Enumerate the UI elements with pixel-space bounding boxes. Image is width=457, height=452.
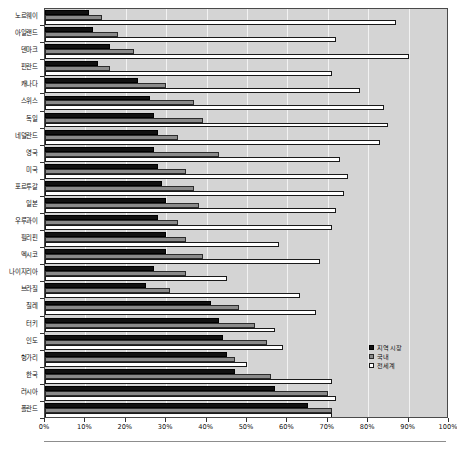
bar — [45, 310, 316, 315]
y-axis-tick-label: 칠레 — [26, 303, 38, 310]
y-axis-tick-label: 스위스 — [21, 98, 38, 105]
y-axis-labels: 노르웨이아일랜드덴마크핀란드캐나다스위스독일네덜란드영국미국포르투갈일본우루과이… — [0, 8, 41, 418]
bar — [45, 123, 388, 128]
bar-group — [45, 317, 447, 334]
bar-group — [45, 163, 447, 180]
x-axis-tick-label: 80% — [360, 423, 375, 431]
bar-group — [45, 265, 447, 282]
y-axis-tick-label: 아일랜드 — [15, 30, 38, 37]
y-axis-tick-label: 미국 — [26, 167, 38, 174]
bar-group — [45, 43, 447, 60]
bar — [45, 328, 275, 333]
x-axis-tick-label: 70% — [319, 423, 334, 431]
bar-group — [45, 299, 447, 316]
bar-group — [45, 146, 447, 163]
legend-item: 전세계 — [369, 361, 443, 369]
y-axis-tick-label: 우루과이 — [15, 218, 38, 225]
bar-group — [45, 248, 447, 265]
y-axis-tick-label: 헝가리 — [21, 355, 38, 362]
x-axis-tick-label: 0% — [39, 423, 49, 431]
bar — [45, 345, 283, 350]
bar-group — [45, 26, 447, 43]
y-axis-tick-label: 독일 — [26, 116, 38, 123]
bar-group — [45, 129, 447, 146]
white-square-swatch — [369, 363, 374, 368]
x-axis-tick — [44, 418, 45, 422]
bar-group — [45, 385, 447, 402]
bar-group — [45, 180, 447, 197]
bar — [45, 54, 409, 59]
black-square-swatch — [369, 345, 374, 350]
x-axis: 0%10%20%30%40%50%60%70%80%90%100% — [44, 418, 448, 436]
y-axis-tick-label: 캐나다 — [21, 81, 38, 88]
bar — [45, 105, 384, 110]
y-axis-tick-label: 핀란드 — [21, 64, 38, 71]
y-axis-tick-label: 인도 — [26, 338, 38, 345]
y-axis-tick-label: 일본 — [26, 201, 38, 208]
y-axis-tick-label: 한국 — [26, 372, 38, 379]
bar-group — [45, 231, 447, 248]
bar — [45, 242, 279, 247]
y-axis-tick-label: 나이지리아 — [9, 269, 38, 276]
x-axis-tick — [408, 418, 409, 422]
bar — [45, 37, 336, 42]
legend-item: 국내 — [369, 352, 443, 360]
legend-label: 전세계 — [377, 361, 394, 370]
x-axis-tick — [125, 418, 126, 422]
y-axis-tick-label: 브라질 — [21, 286, 38, 293]
x-axis-tick — [206, 418, 207, 422]
bar — [45, 174, 348, 179]
x-axis-tick — [367, 418, 368, 422]
bar — [45, 208, 336, 213]
bar-group — [45, 60, 447, 77]
x-axis-tick-label: 40% — [198, 423, 213, 431]
x-axis-tick-label: 90% — [400, 423, 415, 431]
bar — [45, 140, 380, 145]
x-axis-tick — [327, 418, 328, 422]
y-axis-tick-label: 멕시코 — [21, 252, 38, 259]
bottom-rule — [44, 441, 446, 442]
bar — [45, 362, 247, 367]
y-axis-tick-label: 네덜란드 — [15, 133, 38, 140]
x-axis-tick-label: 30% — [158, 423, 173, 431]
x-axis-tick — [246, 418, 247, 422]
bar — [45, 276, 227, 281]
bar-group — [45, 402, 447, 418]
bar — [45, 396, 336, 401]
y-axis-tick-label: 영국 — [26, 150, 38, 157]
bar-group — [45, 112, 447, 129]
gray-square-swatch — [369, 354, 374, 359]
bar — [45, 379, 332, 384]
y-axis-tick-label: 터키 — [26, 321, 38, 328]
y-axis-tick-label: 노르웨이 — [15, 13, 38, 20]
bar — [45, 293, 300, 298]
y-axis-tick-label: 포르투갈 — [15, 184, 38, 191]
x-axis-tick — [448, 418, 449, 422]
legend-item: 지역 시장 — [369, 343, 443, 351]
y-axis-tick-label: 필리핀 — [21, 235, 38, 242]
x-axis-tick-label: 100% — [439, 423, 457, 431]
x-axis-tick-label: 20% — [117, 423, 132, 431]
y-axis-tick-label: 덴마크 — [21, 47, 38, 54]
bar-group — [45, 282, 447, 299]
bar — [45, 88, 360, 93]
x-axis-tick-label: 10% — [77, 423, 92, 431]
bar — [45, 225, 332, 230]
x-axis-tick — [286, 418, 287, 422]
legend-label: 국내 — [377, 352, 389, 361]
bar-group — [45, 9, 447, 26]
bar — [45, 191, 344, 196]
bar — [45, 71, 332, 76]
y-axis-tick-label: 폴란드 — [21, 406, 38, 413]
bar-group — [45, 368, 447, 385]
bar — [45, 20, 396, 25]
bar — [45, 157, 340, 162]
bar-group — [45, 77, 447, 94]
bar — [45, 259, 320, 264]
legend-label: 지역 시장 — [377, 343, 402, 352]
y-axis-tick-label: 러시아 — [21, 389, 38, 396]
bar-group — [45, 214, 447, 231]
chart-legend: 지역 시장국내전세계 — [369, 343, 443, 370]
x-axis-tick — [84, 418, 85, 422]
